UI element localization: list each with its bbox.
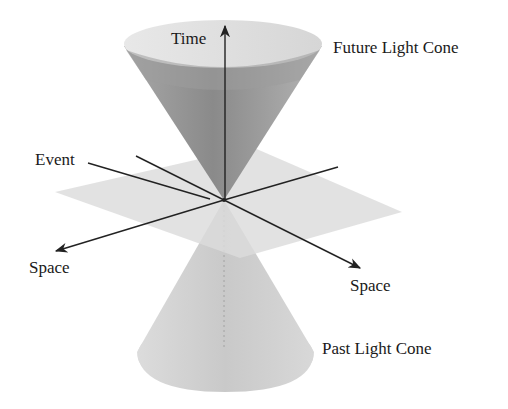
future-light-cone-label: Future Light Cone <box>333 39 459 56</box>
event-point <box>222 198 226 202</box>
light-cone-diagram <box>0 0 508 409</box>
space-right-label: Space <box>350 277 391 294</box>
past-light-cone-label: Past Light Cone <box>322 340 432 357</box>
event-label: Event <box>35 151 75 168</box>
time-label: Time <box>171 30 206 47</box>
space-left-label: Space <box>29 259 70 276</box>
